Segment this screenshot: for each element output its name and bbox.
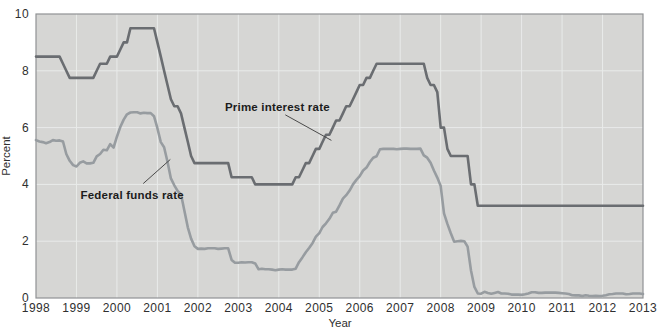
x-tick-label: 2000 [103,301,131,315]
federal-funds-rate-label: Federal funds rate [81,189,184,201]
y-tick-label: 0 [22,291,29,305]
x-tick-label: 1999 [62,301,90,315]
x-tick-label: 2010 [507,301,535,315]
x-axis-title: Year [328,317,351,329]
y-axis-tick-labels: 0246810 [15,7,29,305]
y-tick-label: 10 [15,7,29,21]
x-tick-label: 2005 [305,301,333,315]
x-tick-label: 2007 [386,301,414,315]
x-axis-tick-labels: 1998199920002001200220032004200520062007… [22,301,657,315]
plot-area [36,14,643,298]
prime-interest-rate-label: Prime interest rate [225,101,330,113]
x-tick-label: 2009 [467,301,495,315]
x-tick-label: 2006 [346,301,374,315]
y-tick-label: 8 [22,64,29,78]
x-tick-label: 2008 [427,301,455,315]
y-tick-label: 4 [22,177,29,191]
x-tick-label: 2003 [224,301,252,315]
y-axis-title: Percent [0,135,12,175]
y-tick-label: 6 [22,121,29,135]
y-tick-label: 2 [22,234,29,248]
x-tick-label: 2011 [548,301,575,315]
x-tick-label: 2002 [184,301,212,315]
interest-rate-figure: 1998199920002001200220032004200520062007… [0,0,660,336]
x-tick-label: 2004 [265,301,293,315]
x-tick-label: 2013 [629,301,657,315]
x-tick-label: 2001 [143,301,171,315]
x-tick-label: 2012 [588,301,616,315]
interest-rate-line-chart: 1998199920002001200220032004200520062007… [0,0,660,336]
